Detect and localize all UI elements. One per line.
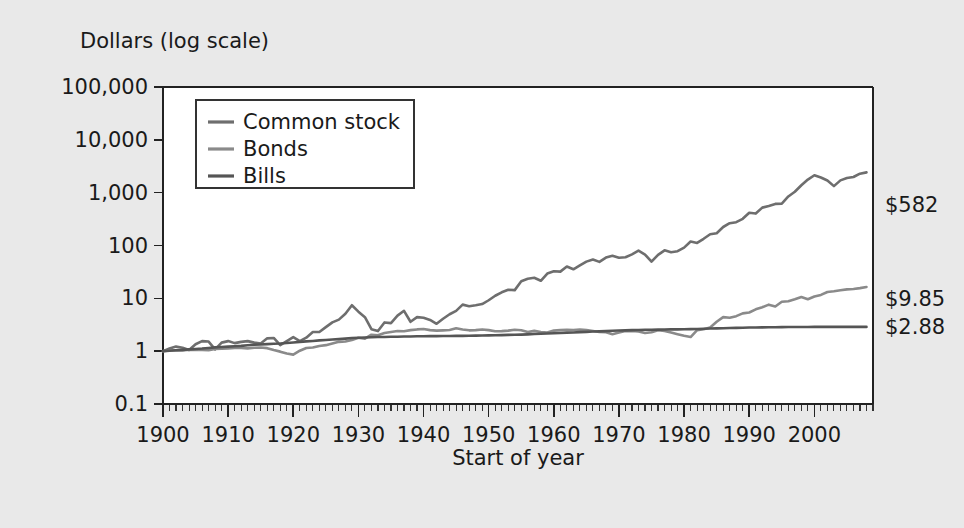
x-tick-label: 1900 xyxy=(136,423,189,447)
y-tick-label: 100,000 xyxy=(61,75,148,99)
figure-page: 100,00010,0001,0001001010.1 190019101920… xyxy=(0,0,964,528)
y-axis-title: Dollars (log scale) xyxy=(80,29,269,53)
series-end-labels: $582$9.85$2.88 xyxy=(885,193,945,339)
end-label-common-stock: $582 xyxy=(885,193,938,217)
x-axis-tick-labels: 1900191019201930194019501960197019801990… xyxy=(136,423,841,447)
y-tick-label: 1,000 xyxy=(88,181,148,205)
investment-growth-chart: 100,00010,0001,0001001010.1 190019101920… xyxy=(0,0,964,528)
chart-legend: Common stockBondsBills xyxy=(196,100,414,188)
x-tick-label: 1950 xyxy=(462,423,515,447)
legend-label-common-stock: Common stock xyxy=(243,110,401,134)
y-tick-label: 100 xyxy=(108,234,148,258)
y-tick-label: 10,000 xyxy=(75,128,148,152)
x-tick-label: 1970 xyxy=(592,423,645,447)
end-label-bonds: $9.85 xyxy=(885,287,945,311)
x-tick-label: 1940 xyxy=(397,423,450,447)
legend-label-bonds: Bonds xyxy=(243,137,308,161)
y-axis-tick-labels: 100,00010,0001,0001001010.1 xyxy=(61,75,148,416)
y-tick-label: 1 xyxy=(135,339,148,363)
x-tick-label: 1930 xyxy=(332,423,385,447)
chart-canvas: 100,00010,0001,0001001010.1 190019101920… xyxy=(0,0,964,528)
y-axis-ticks xyxy=(154,87,163,404)
x-tick-label: 1980 xyxy=(657,423,710,447)
x-tick-label: 1990 xyxy=(723,423,776,447)
x-axis-minor-ticks xyxy=(170,404,873,411)
x-axis-title: Start of year xyxy=(452,446,584,470)
x-tick-label: 1910 xyxy=(201,423,254,447)
end-label-bills: $2.88 xyxy=(885,315,945,339)
x-tick-label: 1960 xyxy=(527,423,580,447)
x-tick-label: 2000 xyxy=(788,423,841,447)
x-tick-label: 1920 xyxy=(267,423,320,447)
y-tick-label: 10 xyxy=(121,286,148,310)
legend-label-bills: Bills xyxy=(243,164,286,188)
y-tick-label: 0.1 xyxy=(115,392,148,416)
